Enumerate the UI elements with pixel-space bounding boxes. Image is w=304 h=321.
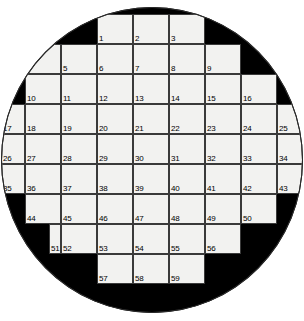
- crossword-cell-39[interactable]: 39: [133, 164, 169, 194]
- cell-number: 38: [99, 184, 107, 193]
- cell-number: 6: [99, 64, 103, 73]
- cell-number: 30: [135, 154, 143, 163]
- cell-number: 28: [63, 154, 71, 163]
- crossword-cell-26[interactable]: 26: [1, 134, 25, 164]
- crossword-cell-31[interactable]: 31: [169, 134, 205, 164]
- crossword-cell-27[interactable]: 27: [25, 134, 61, 164]
- crossword-cell-43[interactable]: 43: [277, 164, 303, 194]
- crossword-cell-37[interactable]: 37: [61, 164, 97, 194]
- crossword-cell-55[interactable]: 55: [169, 224, 205, 254]
- crossword-cell-11[interactable]: 11: [61, 74, 97, 104]
- cell-number: 14: [171, 94, 179, 103]
- crossword-cell-21[interactable]: 21: [133, 104, 169, 134]
- crossword-cell-24[interactable]: 24: [241, 104, 277, 134]
- cell-number: 5: [63, 64, 67, 73]
- cell-number: 23: [207, 124, 215, 133]
- crossword-cell-10[interactable]: 10: [25, 74, 61, 104]
- crossword-cell-7[interactable]: 7: [133, 44, 169, 74]
- crossword-cell-20[interactable]: 20: [97, 104, 133, 134]
- cell-number: 21: [135, 124, 143, 133]
- cell-number: 9: [207, 64, 211, 73]
- crossword-cell-58[interactable]: 58: [133, 254, 169, 284]
- cell-number: 33: [243, 154, 251, 163]
- puzzle-disc: 1234567891011121314151617181920212223242…: [1, 7, 303, 313]
- crossword-cell-28[interactable]: 28: [61, 134, 97, 164]
- crossword-cell-3[interactable]: 3: [169, 14, 205, 44]
- cell-number: 2: [135, 34, 139, 43]
- cell-number: 24: [243, 124, 251, 133]
- cell-number: 8: [171, 64, 175, 73]
- crossword-cell-42[interactable]: 42: [241, 164, 277, 194]
- crossword-cell-36[interactable]: 36: [25, 164, 61, 194]
- crossword-cell-33[interactable]: 33: [241, 134, 277, 164]
- crossword-cell-18[interactable]: 18: [25, 104, 61, 134]
- cell-number: 12: [99, 94, 107, 103]
- crossword-cell-32[interactable]: 32: [205, 134, 241, 164]
- cell-number: 16: [243, 94, 251, 103]
- crossword-cell-53[interactable]: 53: [97, 224, 133, 254]
- crossword-cell-51[interactable]: 51: [49, 224, 61, 254]
- crossword-cell-50[interactable]: 50: [241, 194, 277, 224]
- cell-number: 42: [243, 184, 251, 193]
- crossword-cell-6[interactable]: 6: [97, 44, 133, 74]
- cell-number: 45: [63, 214, 71, 223]
- crossword-puzzle: 1234567891011121314151617181920212223242…: [0, 0, 304, 321]
- crossword-cell-49[interactable]: 49: [205, 194, 241, 224]
- crossword-cell-35[interactable]: 35: [1, 164, 25, 194]
- crossword-cell-34[interactable]: 34: [277, 134, 303, 164]
- crossword-cell-8[interactable]: 8: [169, 44, 205, 74]
- crossword-cell-59[interactable]: 59: [169, 254, 205, 284]
- crossword-cell-16[interactable]: 16: [241, 74, 277, 104]
- crossword-cell-30[interactable]: 30: [133, 134, 169, 164]
- cell-number: 43: [279, 184, 287, 193]
- cell-number: 51: [51, 244, 59, 253]
- cell-number: 17: [3, 124, 11, 133]
- cell-number: 34: [279, 154, 287, 163]
- crossword-cell-57[interactable]: 57: [97, 254, 133, 284]
- crossword-cell-29[interactable]: 29: [97, 134, 133, 164]
- crossword-cell-47[interactable]: 47: [133, 194, 169, 224]
- crossword-cell-46[interactable]: 46: [97, 194, 133, 224]
- cell-number: 25: [279, 124, 287, 133]
- crossword-cell-1[interactable]: 1: [97, 14, 133, 44]
- cell-number: 32: [207, 154, 215, 163]
- crossword-cell-2[interactable]: 2: [133, 14, 169, 44]
- crossword-cell-13[interactable]: 13: [133, 74, 169, 104]
- crossword-cell-48[interactable]: 48: [169, 194, 205, 224]
- crossword-cell-38[interactable]: 38: [97, 164, 133, 194]
- cell-number: 59: [171, 274, 179, 283]
- crossword-cell-19[interactable]: 19: [61, 104, 97, 134]
- crossword-cell-15[interactable]: 15: [205, 74, 241, 104]
- cell-number: 37: [63, 184, 71, 193]
- crossword-cell-25[interactable]: 25: [277, 104, 303, 134]
- crossword-cell-23[interactable]: 23: [205, 104, 241, 134]
- cell-number: 55: [171, 244, 179, 253]
- cell-number: 54: [135, 244, 143, 253]
- cell-number: 47: [135, 214, 143, 223]
- cell-number: 50: [243, 214, 251, 223]
- crossword-cell-52[interactable]: 52: [61, 224, 97, 254]
- cell-number: 48: [171, 214, 179, 223]
- crossword-cell-9[interactable]: 9: [205, 44, 241, 74]
- crossword-cell-44[interactable]: 44: [25, 194, 61, 224]
- cell-number: 35: [3, 184, 11, 193]
- crossword-cell-56[interactable]: 56: [205, 224, 241, 254]
- crossword-cell-5[interactable]: 5: [61, 44, 97, 74]
- cell-number: 15: [207, 94, 215, 103]
- crossword-cell-12[interactable]: 12: [97, 74, 133, 104]
- cell-number: 4: [27, 64, 31, 73]
- crossword-cell-40[interactable]: 40: [169, 164, 205, 194]
- crossword-cell-54[interactable]: 54: [133, 224, 169, 254]
- cell-number: 26: [3, 154, 11, 163]
- crossword-cell-4[interactable]: 4: [25, 44, 61, 74]
- crossword-cell-14[interactable]: 14: [169, 74, 205, 104]
- cell-number: 18: [27, 124, 35, 133]
- crossword-cell-45[interactable]: 45: [61, 194, 97, 224]
- crossword-cell-41[interactable]: 41: [205, 164, 241, 194]
- cell-number: 40: [171, 184, 179, 193]
- crossword-cell-22[interactable]: 22: [169, 104, 205, 134]
- cell-number: 1: [99, 34, 103, 43]
- cell-number: 11: [63, 94, 71, 103]
- cell-number: 56: [207, 244, 215, 253]
- crossword-cell-17[interactable]: 17: [1, 104, 25, 134]
